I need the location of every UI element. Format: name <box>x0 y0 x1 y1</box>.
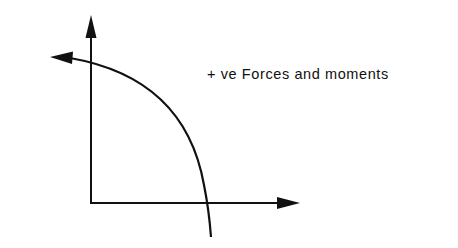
force-moment-diagram <box>0 0 458 248</box>
left-arrow-icon <box>50 52 73 65</box>
diagram-label: + ve Forces and moments <box>207 66 389 82</box>
vertical-axis <box>86 15 97 204</box>
horizontal-axis <box>91 197 300 209</box>
right-arrow-icon <box>277 197 300 209</box>
moment-arc <box>50 52 211 238</box>
up-arrow-icon <box>86 15 97 38</box>
